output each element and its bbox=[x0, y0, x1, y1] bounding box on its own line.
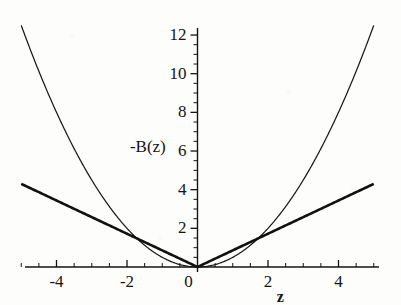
y-tick-label: 12 bbox=[170, 26, 187, 43]
x-axis-label: z bbox=[277, 289, 284, 305]
x-tick-label: 0 bbox=[169, 273, 209, 290]
y-axis-ticks bbox=[191, 35, 198, 257]
y-tick-label: 4 bbox=[178, 181, 187, 198]
y-tick-label: 10 bbox=[170, 65, 187, 82]
x-tick-label: -2 bbox=[107, 273, 147, 290]
x-tick-label: 4 bbox=[319, 273, 359, 290]
y-tick-label: 8 bbox=[178, 103, 187, 120]
y-tick-label: 6 bbox=[178, 142, 187, 159]
axes-group bbox=[25, 28, 379, 272]
chart-plot-area: 24681012-4-2024 -B(z) z bbox=[0, 0, 401, 305]
curve-family-label: -B(z) bbox=[130, 138, 166, 155]
y-tick-label: 2 bbox=[178, 219, 187, 236]
chart-svg bbox=[0, 0, 401, 305]
x-tick-label: -4 bbox=[37, 273, 77, 290]
